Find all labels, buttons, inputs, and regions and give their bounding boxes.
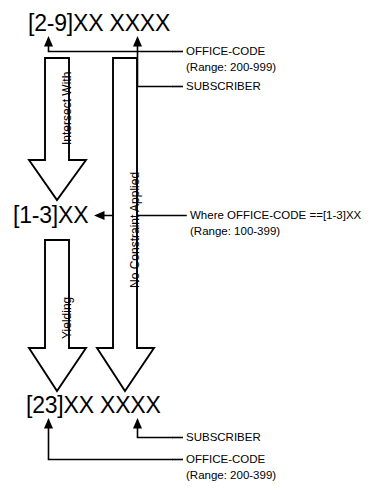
top-pattern-label: [2-9]XX XXXX [28, 12, 170, 35]
bottom-office-code-range: (Range: 200-399) [186, 468, 276, 483]
arrow-caption-intersect-with: Intersect With [61, 72, 73, 145]
middle-condition-range: (Range: 100-399) [190, 224, 280, 239]
arrow-caption-no-constraint-applied: No Constraint Applied [129, 172, 141, 288]
block-arrow-intersect-with [29, 58, 86, 200]
bottom-leader-office-code [44, 418, 172, 460]
top-leader-subscriber [133, 36, 172, 87]
annotation-dash-marks [172, 52, 183, 460]
top-office-code-label: OFFICE-CODE [186, 44, 265, 59]
pattern-constraint-diagram: [2-9]XX XXXX OFFICE-CODE (Range: 200-999… [0, 0, 376, 492]
top-office-code-range: (Range: 200-999) [186, 60, 276, 75]
top-subscriber-label: SUBSCRIBER [186, 79, 261, 94]
bottom-leader-subscriber [133, 418, 172, 438]
middle-condition-line: Where OFFICE-CODE ==[1-3]XX [190, 208, 361, 223]
bottom-office-code-label: OFFICE-CODE [186, 452, 265, 467]
block-arrow-yielding [29, 240, 86, 391]
block-arrow-no-constraint-applied [97, 58, 154, 391]
arrow-caption-yielding: Yielding [61, 297, 73, 339]
middle-pattern-label: [1-3]XX [13, 204, 88, 227]
bottom-pattern-label: [23]XX XXXX [26, 394, 161, 417]
top-leader-office-code [44, 36, 172, 52]
bottom-subscriber-label: SUBSCRIBER [186, 430, 261, 445]
